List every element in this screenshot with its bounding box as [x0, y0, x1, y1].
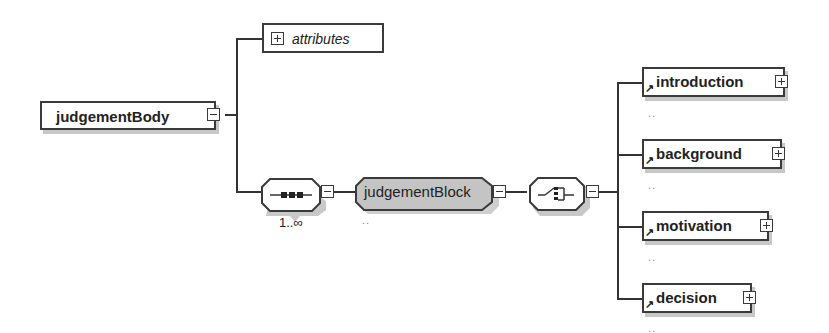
element-label: judgementBlock: [364, 183, 471, 200]
connector-root-vertical: [236, 38, 238, 192]
reference-arrow-icon: ↗: [645, 82, 654, 95]
connector-to-sequence: [236, 191, 262, 193]
attributes-group[interactable]: attributes: [262, 23, 384, 53]
element-label: motivation: [656, 217, 732, 234]
connector-sequence-block: [334, 191, 356, 193]
connector-to-decision: [617, 298, 642, 300]
reference-arrow-icon: ↗: [645, 154, 654, 167]
connector-choice-out: [598, 191, 618, 193]
expand-toggle-introduction[interactable]: [775, 75, 788, 88]
connector-to-attributes: [236, 38, 262, 40]
expand-toggle-decision[interactable]: [743, 291, 756, 304]
element-label: decision: [656, 289, 717, 306]
connector-to-motivation: [617, 226, 642, 228]
element-introduction[interactable]: ↗ introduction: [642, 67, 785, 97]
collapse-toggle-judgementblock[interactable]: [493, 185, 506, 198]
connector-block-choice: [505, 191, 527, 193]
expand-toggle-attributes[interactable]: [271, 32, 284, 45]
element-label: judgementBody: [56, 108, 169, 125]
ellipsis: ..: [648, 322, 656, 333]
element-judgementbody[interactable]: judgementBody: [40, 101, 216, 130]
connector-children-vertical: [617, 82, 619, 299]
connector-to-introduction: [617, 82, 642, 84]
collapse-toggle-sequence[interactable]: [321, 185, 334, 198]
element-motivation[interactable]: ↗ motivation: [642, 211, 769, 241]
reference-arrow-icon: ↗: [645, 298, 654, 311]
ellipsis: ..: [648, 179, 656, 191]
element-decision[interactable]: ↗ decision: [642, 283, 752, 313]
reference-arrow-icon: ↗: [645, 226, 654, 239]
connector-to-background: [617, 154, 642, 156]
expand-toggle-motivation[interactable]: [760, 219, 773, 232]
ellipsis: ..: [648, 251, 656, 263]
expand-toggle-background[interactable]: [772, 147, 785, 160]
occurrence-label: 1..∞: [279, 215, 303, 230]
attributes-label: attributes: [292, 31, 350, 47]
element-label: introduction: [656, 73, 743, 90]
element-background[interactable]: ↗ background: [642, 139, 782, 169]
choice-compositor-icon[interactable]: [528, 176, 590, 218]
element-label: background: [656, 145, 742, 162]
collapse-toggle-judgementbody[interactable]: [207, 108, 220, 121]
ellipsis: ..: [648, 107, 656, 119]
collapse-toggle-choice[interactable]: [586, 185, 599, 198]
ellipsis: ..: [362, 214, 370, 226]
